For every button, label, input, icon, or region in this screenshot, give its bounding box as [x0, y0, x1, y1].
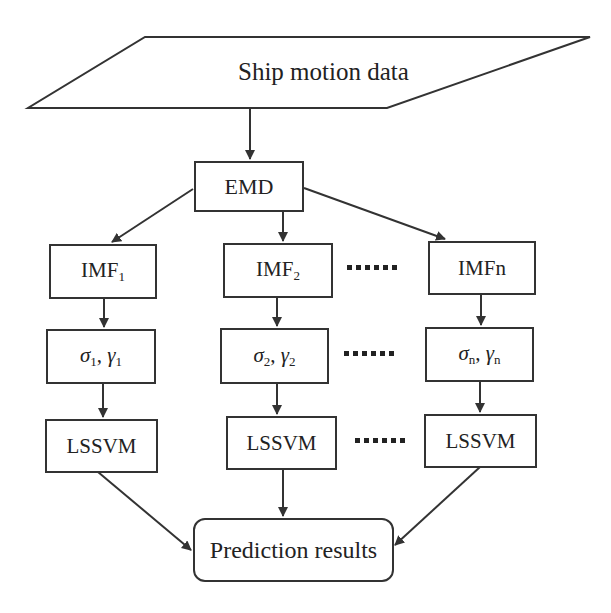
- imf-label: IMFn: [458, 256, 506, 281]
- imf-box-1: IMF1: [49, 244, 157, 299]
- lssvm-label: LSSVM: [66, 434, 136, 459]
- param-label: σn, γn: [458, 341, 500, 368]
- param-label: σ1, γ1: [80, 343, 122, 370]
- param-box-1: σ1, γ1: [46, 329, 156, 384]
- prediction-results-box: Prediction results: [193, 518, 394, 582]
- lssvm-box-1: LSSVM: [45, 419, 158, 473]
- ellipsis-dots: [344, 265, 405, 443]
- lssvm-box-2: LSSVM: [226, 416, 337, 470]
- emd-box: EMD: [194, 161, 304, 212]
- prediction-results-label: Prediction results: [210, 537, 377, 564]
- emd-label: EMD: [225, 174, 274, 200]
- param-box-2: σ2, γ2: [220, 328, 329, 384]
- param-label: σ2, γ2: [253, 343, 295, 370]
- lssvm-label: LSSVM: [246, 431, 316, 456]
- imf-box-n: IMFn: [428, 241, 536, 295]
- input-label: Ship motion data: [238, 58, 409, 86]
- param-box-n: σn, γn: [425, 327, 534, 382]
- lssvm-box-n: LSSVM: [424, 414, 537, 468]
- imf-label: IMF1: [81, 258, 125, 285]
- imf-box-2: IMF2: [223, 243, 333, 298]
- lssvm-label: LSSVM: [445, 429, 515, 454]
- imf-label: IMF2: [256, 257, 300, 284]
